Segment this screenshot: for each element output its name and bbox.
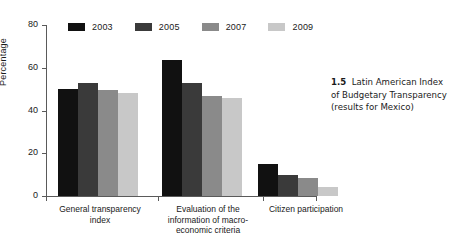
x-tick-mark-4	[316, 196, 317, 201]
bar-2005-group2[interactable]	[182, 83, 202, 196]
x-axis-category-line: information of macro-	[156, 215, 260, 226]
x-axis-category-line: Citizen participation	[256, 204, 356, 215]
bar-2007-group3[interactable]	[298, 178, 318, 196]
x-tick-mark-2	[158, 196, 159, 201]
x-axis-category-label-1: General transparencyindex	[48, 204, 152, 225]
bar-2009-group2[interactable]	[222, 98, 242, 196]
bar-2005-group1[interactable]	[78, 83, 98, 196]
figure-number: 1.5	[331, 77, 346, 87]
x-axis-category-line: General transparency	[48, 204, 152, 215]
x-tick-mark-3	[263, 196, 264, 201]
figure-container: 2003200520072009 Percentage 020406080 1.…	[0, 0, 456, 244]
bar-group-3	[258, 25, 338, 196]
x-axis-line	[46, 196, 316, 197]
bar-2003-group2[interactable]	[162, 60, 182, 196]
y-tick-label: 60	[28, 62, 38, 72]
y-tick-label: 0	[33, 190, 38, 200]
bar-2005-group3[interactable]	[278, 175, 298, 196]
y-tick-label: 20	[28, 147, 38, 157]
x-tick-mark-1	[46, 196, 47, 201]
bar-2007-group1[interactable]	[98, 90, 118, 196]
x-axis-category-label-3: Citizen participation	[256, 204, 356, 215]
bar-2009-group3[interactable]	[318, 187, 338, 196]
bar-2009-group1[interactable]	[118, 93, 138, 196]
y-tick-mark	[42, 68, 46, 69]
bar-group-1	[58, 25, 138, 196]
y-axis-title: Percentage	[0, 38, 8, 86]
bar-2007-group2[interactable]	[202, 96, 222, 196]
x-axis-category-line: index	[48, 215, 152, 226]
plot-area: 020406080	[46, 25, 314, 196]
x-axis-category-label-2: Evaluation of theinformation of macro-ec…	[156, 204, 260, 236]
y-tick-mark	[42, 153, 46, 154]
bar-2003-group1[interactable]	[58, 89, 78, 196]
bar-2003-group3[interactable]	[258, 164, 278, 196]
y-tick-label: 80	[28, 19, 38, 29]
y-tick-label: 40	[28, 105, 38, 115]
figure-caption: 1.5 Latin American Index of Budgetary Tr…	[331, 76, 453, 114]
x-axis-category-line: Evaluation of the	[156, 204, 260, 215]
bar-group-2	[162, 25, 242, 196]
y-tick-mark	[42, 25, 46, 26]
y-tick-mark	[42, 111, 46, 112]
x-axis-category-line: economic criteria	[156, 225, 260, 236]
